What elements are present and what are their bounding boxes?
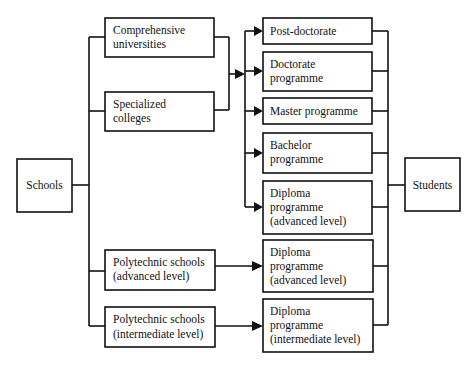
node-label: Diploma: [270, 187, 310, 200]
node-label: Bachelor: [270, 139, 312, 151]
arrow-icon: [254, 106, 263, 116]
node-polytechnic-intermediate: Polytechnic schools (intermediate level): [105, 307, 215, 347]
node-label: Polytechnic schools: [113, 256, 205, 269]
node-diploma-advanced-university: Diploma programme (advanced level): [263, 181, 372, 234]
education-flow-diagram: Schools Comprehensive universities Speci…: [0, 0, 474, 365]
node-label: Diploma: [270, 305, 310, 318]
node-label: Specialized: [113, 98, 166, 111]
node-label: Students: [413, 179, 453, 191]
node-label: (advanced level): [270, 274, 346, 287]
node-specialized-colleges: Specialized colleges: [105, 92, 214, 131]
node-polytechnic-advanced: Polytechnic schools (advanced level): [105, 250, 215, 290]
node-label: programme: [270, 72, 323, 85]
node-students: Students: [405, 158, 460, 211]
node-diploma-intermediate-polytechnic: Diploma programme (intermediate level): [263, 299, 373, 352]
arrow-icon: [254, 148, 263, 158]
node-label: Post-doctorate: [270, 25, 336, 37]
node-label: (advanced level): [270, 215, 346, 228]
node-master-programme: Master programme: [263, 98, 372, 124]
node-comprehensive-universities: Comprehensive universities: [105, 18, 214, 57]
node-label: (advanced level): [113, 270, 189, 283]
node-label: Diploma: [270, 246, 310, 259]
node-label: programme: [270, 319, 323, 332]
arrow-icon: [235, 69, 245, 79]
arrow-icon: [252, 321, 263, 331]
node-label: programme: [270, 201, 323, 214]
node-label: Master programme: [270, 105, 358, 118]
arrow-icon: [252, 261, 263, 271]
node-label: Schools: [26, 179, 63, 191]
node-diploma-advanced-polytechnic: Diploma programme (advanced level): [263, 240, 373, 292]
node-doctorate-programme: Doctorate programme: [263, 52, 372, 91]
node-label: Comprehensive: [113, 24, 185, 37]
node-label: Polytechnic schools: [113, 313, 205, 326]
node-bachelor-programme: Bachelor programme: [263, 133, 372, 173]
node-label: Doctorate: [270, 58, 315, 70]
node-label: (intermediate level): [270, 333, 361, 346]
node-schools: Schools: [17, 159, 72, 212]
node-label: colleges: [113, 112, 151, 125]
node-label: programme: [270, 260, 323, 273]
node-label: programme: [270, 153, 323, 166]
arrow-icon: [254, 26, 263, 36]
arrow-icon: [254, 66, 263, 76]
node-label: universities: [113, 38, 167, 50]
node-post-doctorate: Post-doctorate: [263, 18, 372, 44]
arrow-icon: [254, 202, 263, 212]
node-label: (intermediate level): [113, 328, 204, 341]
